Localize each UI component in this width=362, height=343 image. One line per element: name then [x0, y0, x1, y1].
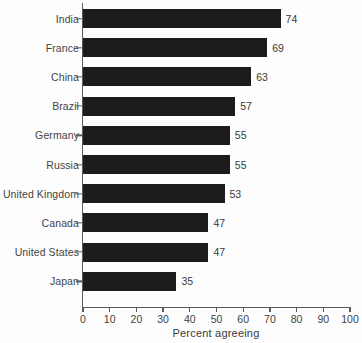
bar	[83, 9, 281, 28]
category-label: China	[51, 71, 79, 83]
x-axis-tick	[269, 307, 270, 312]
x-axis-tick-label: 100	[341, 313, 359, 325]
bar-row: Germany55	[0, 126, 362, 145]
bar-row: Russia55	[0, 155, 362, 174]
bar-value-label: 63	[256, 71, 268, 83]
x-axis-tick-label: 70	[264, 313, 276, 325]
bar-row: United States47	[0, 243, 362, 262]
x-axis-tick	[349, 307, 350, 312]
category-label: Japan	[50, 275, 79, 287]
bar-value-label: 47	[213, 217, 225, 229]
y-axis-tick	[76, 251, 82, 252]
bar	[83, 67, 251, 86]
bar-value-label: 53	[230, 188, 242, 200]
x-axis-tick-label: 0	[80, 313, 86, 325]
y-axis-tick	[76, 135, 82, 136]
bar	[83, 272, 176, 291]
category-label: United States	[15, 246, 79, 258]
category-label: France	[46, 42, 79, 54]
x-axis-tick	[243, 307, 244, 312]
x-axis-tick	[109, 307, 110, 312]
y-axis-tick	[76, 281, 82, 282]
x-axis-tick-label: 60	[237, 313, 249, 325]
bar-value-label: 35	[181, 275, 193, 287]
x-axis-tick-label: 50	[211, 313, 223, 325]
bar-value-label: 55	[235, 159, 247, 171]
category-label: Russia	[46, 159, 79, 171]
x-axis-tick-label: 40	[184, 313, 196, 325]
x-axis-tick	[323, 307, 324, 312]
bar-value-label: 74	[286, 13, 298, 25]
category-label: Germany	[35, 129, 79, 141]
bar-row: Japan35	[0, 272, 362, 291]
bar	[83, 38, 267, 57]
bar-row: United Kingdom53	[0, 184, 362, 203]
bar-row: India74	[0, 9, 362, 28]
bar-row: France69	[0, 38, 362, 57]
bar	[83, 213, 208, 232]
y-axis-tick	[76, 164, 82, 165]
y-axis-tick	[76, 222, 82, 223]
x-axis-tick	[189, 307, 190, 312]
category-label: United Kingdom	[3, 188, 79, 200]
bar	[83, 126, 230, 145]
bar-value-label: 55	[235, 129, 247, 141]
x-axis-tick-label: 80	[291, 313, 303, 325]
x-axis-tick-label: 20	[131, 313, 143, 325]
bar-chart: India74France69China63Brazil57Germany55R…	[0, 0, 362, 343]
x-axis-tick	[162, 307, 163, 312]
bar-row: Brazil57	[0, 97, 362, 116]
category-label: Brazil	[52, 100, 79, 112]
y-axis-tick	[76, 47, 82, 48]
bar-value-label: 69	[272, 42, 284, 54]
bar	[83, 184, 225, 203]
y-axis-tick	[76, 76, 82, 77]
x-axis-tick	[296, 307, 297, 312]
x-axis-tick	[216, 307, 217, 312]
bar-row: Canada47	[0, 213, 362, 232]
bar-value-label: 47	[213, 246, 225, 258]
bar	[83, 97, 235, 116]
bar	[83, 243, 208, 262]
x-axis-title-text: Percent agreeing	[173, 327, 260, 339]
category-label: Canada	[42, 217, 79, 229]
x-axis-tick-label: 10	[104, 313, 116, 325]
y-axis-tick	[76, 193, 82, 194]
x-axis-title: Percent agreeing	[0, 327, 362, 339]
bar	[83, 155, 230, 174]
y-axis-tick	[76, 105, 82, 106]
x-axis-tick	[82, 307, 83, 312]
x-axis-tick-label: 30	[157, 313, 169, 325]
plot-area: India74France69China63Brazil57Germany55R…	[0, 0, 362, 343]
bar-row: China63	[0, 67, 362, 86]
bar-value-label: 57	[240, 100, 252, 112]
x-axis-tick	[136, 307, 137, 312]
y-axis-tick	[76, 18, 82, 19]
x-axis-tick-label: 90	[317, 313, 329, 325]
